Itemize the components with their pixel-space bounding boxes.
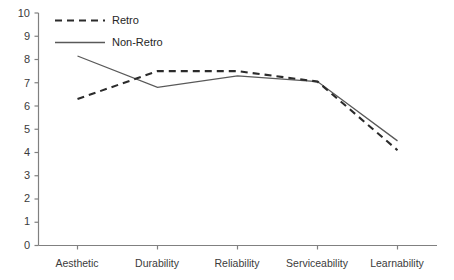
line-chart: 10 9 8 7 6 5 4 3 2 1 0 Aesthetic Durabil…: [0, 0, 454, 280]
x-tick-label-durability: Durability: [135, 258, 179, 269]
y-tick-label-9: 9: [4, 31, 30, 42]
y-tick-label-6: 6: [4, 101, 30, 112]
series-line-non-retro: [78, 56, 398, 141]
plot-area: [0, 0, 454, 280]
x-tick-label-serviceability: Serviceability: [286, 258, 348, 269]
y-tick-label-10: 10: [4, 8, 30, 19]
y-tick-label-2: 2: [4, 193, 30, 204]
y-tick-label-5: 5: [4, 124, 30, 135]
legend-label-retro: Retro: [112, 14, 139, 26]
y-tick-label-0: 0: [4, 240, 30, 251]
x-tick-marks: [78, 246, 398, 250]
x-tick-label-aesthetic: Aesthetic: [55, 258, 98, 269]
x-tick-label-reliability: Reliability: [215, 258, 260, 269]
y-tick-label-8: 8: [4, 54, 30, 65]
legend-label-non-retro: Non-Retro: [112, 36, 163, 48]
x-tick-label-learnability: Learnability: [370, 258, 424, 269]
series-line-retro: [78, 71, 398, 150]
y-tick-label-1: 1: [4, 216, 30, 227]
y-tick-label-4: 4: [4, 147, 30, 158]
y-tick-label-3: 3: [4, 170, 30, 181]
y-tick-label-7: 7: [4, 78, 30, 89]
